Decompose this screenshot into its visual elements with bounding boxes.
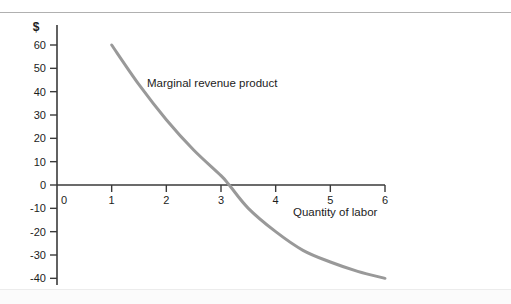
marginal-revenue-product-chart: 6050403020100-10-20-30-40 0123456 $ Quan… [0, 0, 511, 304]
y-axis-tick-label: -30 [30, 249, 46, 261]
x-axis-tick-label: 2 [163, 194, 169, 206]
y-axis-unit-label: $ [33, 20, 40, 34]
series-annotation-label: Marginal revenue product [147, 77, 278, 89]
y-axis-tick-label: -10 [30, 202, 46, 214]
y-axis-tick-label: 50 [34, 62, 46, 74]
chart-page: 6050403020100-10-20-30-40 0123456 $ Quan… [0, 0, 511, 304]
x-axis-tick-label: 6 [382, 194, 388, 206]
x-axis-ticks-group: 0123456 [61, 185, 388, 206]
y-axis-tick-label: 0 [40, 179, 46, 191]
x-axis-tick-label: 1 [109, 194, 115, 206]
y-axis-tick-label: 60 [34, 39, 46, 51]
x-axis-tick-label: 0 [61, 194, 67, 206]
y-axis-tick-label: 20 [34, 132, 46, 144]
y-axis-tick-label: -40 [30, 272, 46, 284]
axes-group [57, 25, 385, 285]
y-axis-tick-label: 30 [34, 109, 46, 121]
y-axis-tick-label: 10 [34, 156, 46, 168]
x-axis-tick-label: 4 [273, 194, 279, 206]
y-axis-ticks-group: 6050403020100-10-20-30-40 [30, 39, 57, 284]
y-axis-tick-label: -20 [30, 226, 46, 238]
x-axis-tick-label: 5 [327, 194, 333, 206]
y-axis-tick-label: 40 [34, 86, 46, 98]
bottom-band [0, 289, 511, 304]
x-axis-tick-label: 3 [218, 194, 224, 206]
x-axis-title: Quantity of labor [293, 206, 378, 218]
